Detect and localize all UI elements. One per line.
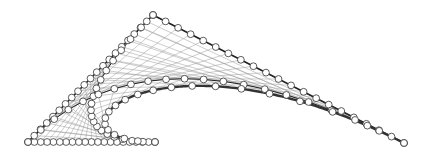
polygon-point [88,139,95,146]
intermediate-point [103,67,110,74]
intermediate-point [163,76,170,83]
polygon-point [101,139,108,146]
intermediate-point [376,127,383,134]
polygon-point [69,139,76,146]
intermediate-point [95,91,102,98]
polygon-point [94,139,101,146]
polygon-point [56,107,63,114]
polygon-point [388,133,395,140]
curve-point [112,102,119,109]
polygon-point [338,108,345,115]
intermediate-point [88,100,95,107]
polygon-point [75,139,82,146]
intermediate-point [65,106,72,113]
curve-point [238,85,245,92]
polygon-point [187,31,194,38]
polygon-point [82,139,89,146]
curve-point [266,90,273,97]
curve-point [212,83,219,90]
intermediate-point [127,36,134,43]
polygon-point [237,56,244,63]
polygon-point [162,18,169,25]
intermediate-point [150,12,157,19]
intermediate-point [305,99,312,106]
intermediate-point [128,81,135,88]
intermediate-point [220,78,227,85]
curve-point [189,83,196,90]
curve-point [401,140,408,147]
curve-point [134,91,141,98]
intermediate-point [51,116,58,123]
polygon-point [31,139,38,146]
curve-point [364,122,371,129]
curve-point [121,135,128,142]
curve-point [134,138,141,145]
curve-point [329,108,336,115]
curve-point [122,96,129,103]
intermediate-point [352,117,359,124]
polygon-point [200,37,207,44]
intermediate-point [80,98,87,105]
intermediate-point [200,76,207,83]
intermediate-point [25,139,32,146]
curve-point [168,84,175,91]
intermediate-point [110,57,117,64]
curve-point [152,139,159,146]
intermediate-point [181,75,188,82]
polygon-point [143,18,150,25]
polygon-point [212,44,219,51]
polygon-point [300,88,307,95]
polygon-point [313,95,320,102]
polygon-point [43,120,50,127]
intermediate-point [138,24,145,31]
bezier-curve-path [105,86,404,143]
polygon-point [44,139,51,146]
polygon-point [275,76,282,83]
intermediate-point [118,47,125,54]
construction-lines [28,15,404,143]
polygon-point [75,88,82,95]
intermediate-point [111,85,118,92]
bezier-diagram [0,0,430,158]
polygon-point [288,82,295,89]
polygon-point [50,139,57,146]
polygon-point [225,50,232,57]
polygon-point [87,75,94,82]
polygon-point [263,69,270,76]
intermediate-point [145,78,152,85]
polygon-point [56,139,63,146]
polygon-point [63,139,70,146]
polygon-point [81,81,88,88]
curve-point [150,87,157,94]
bezier-curve [105,86,404,143]
curve-point [297,98,304,105]
polygon-point [93,69,100,76]
intermediate-point [283,92,290,99]
polygon-point [250,63,257,70]
curve-point [102,115,109,122]
intermediate-point [88,107,95,114]
intermediate-point [37,127,44,134]
polygon-point [68,94,75,101]
intermediate-point [97,76,104,83]
polygon-point [175,24,182,31]
curve-point [111,131,118,138]
polygon-point [31,132,38,139]
curve-point [105,108,112,115]
polygon-point [37,139,44,146]
